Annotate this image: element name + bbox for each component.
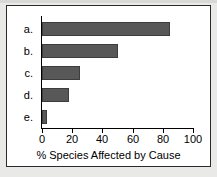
figure: a. b. c. d. e. 0 [0,0,217,177]
x-axis-title: % Species Affected by Cause [7,149,210,161]
x-tick-label: 60 [127,134,139,145]
y-tick-label: b. [24,46,33,57]
x-tick-label: 100 [184,134,202,145]
x-axis-line [42,128,194,129]
bar-c [42,66,80,80]
y-tick-label: e. [24,112,33,123]
plot-area: a. b. c. d. e. [42,17,193,128]
y-tick-label: d. [24,90,33,101]
y-tick-label: a. [24,24,33,35]
x-tick-label: 0 [39,134,45,145]
x-tick-label: 80 [157,134,169,145]
bar-d [42,88,69,102]
chart-frame: a. b. c. d. e. 0 [6,5,211,167]
y-tick-label: c. [24,68,33,79]
x-tick-label: 20 [66,134,78,145]
bar-e [42,110,47,124]
bar-b [42,44,118,58]
x-tick-label: 40 [96,134,108,145]
bar-a [42,22,170,36]
